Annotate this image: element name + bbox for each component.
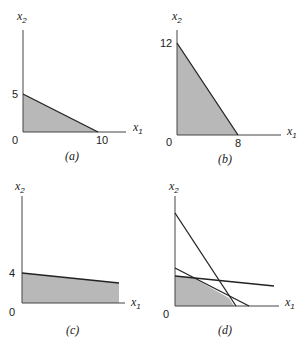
y-intercept-label-b: 12 <box>160 37 172 49</box>
y-intercept-label-a: 5 <box>12 88 18 100</box>
caption-b: (b) <box>218 152 232 166</box>
caption-a: (a) <box>65 149 79 163</box>
y-axis-label-d: x2 <box>168 179 179 195</box>
x-axis-label-b: x1 <box>286 124 297 140</box>
origin-label-d: 0 <box>163 308 169 320</box>
x-axis-label-d: x1 <box>284 295 295 311</box>
figure-canvas: x2 x1 5 0 10 (a) x2 x1 12 0 8 (b) x2 x1 … <box>0 0 307 346</box>
y-axis-label-a: x2 <box>16 9 27 25</box>
panel-b: x2 x1 12 0 8 (b) <box>160 9 297 166</box>
caption-c: (c) <box>66 323 79 337</box>
x-intercept-label-a: 10 <box>96 134 108 146</box>
y-axis-label-b: x2 <box>171 9 182 25</box>
panel-d: x2 x1 0 (d) <box>163 179 295 337</box>
y-intercept-label-c: 4 <box>9 267 15 279</box>
origin-label-b: 0 <box>166 136 172 148</box>
x-axis-label-c: x1 <box>130 295 141 311</box>
panel-c: x2 x1 4 0 (c) <box>9 179 141 337</box>
origin-label-c: 0 <box>9 306 15 318</box>
panel-a: x2 x1 5 0 10 (a) <box>12 9 143 163</box>
x-axis-label-a: x1 <box>132 120 143 136</box>
x-intercept-label-b: 8 <box>235 137 241 149</box>
y-axis-label-c: x2 <box>14 179 25 195</box>
caption-d: (d) <box>218 323 232 337</box>
origin-label-a: 0 <box>12 134 18 146</box>
